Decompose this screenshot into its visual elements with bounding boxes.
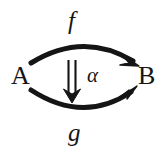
diagram-canvas: A B f g α — [0, 0, 165, 152]
arrow-f-curve — [31, 46, 139, 66]
arrow-f-head — [120, 54, 139, 66]
arrow-g-label: g — [68, 120, 81, 145]
double-down-arrow-icon — [64, 60, 81, 103]
natural-transformation-alpha-label: α — [87, 65, 98, 86]
arrow-f-label: f — [68, 8, 75, 33]
object-a-label: A — [11, 63, 30, 89]
object-b-label: B — [138, 63, 155, 89]
arrow-g-curve — [31, 86, 137, 108]
